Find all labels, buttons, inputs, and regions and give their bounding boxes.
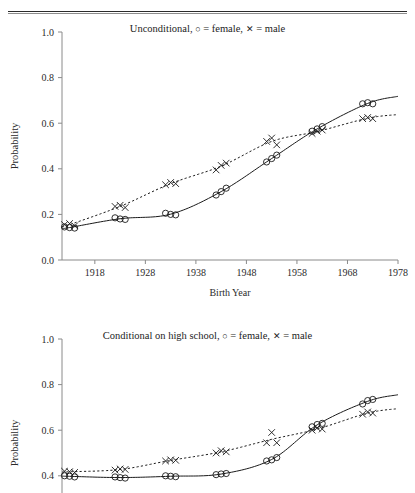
- y-axis-tick-label: 0.4: [42, 470, 55, 481]
- chart-unconditional-plot: 0.00.20.40.60.81.01918192819381948195819…: [0, 18, 415, 318]
- header-rule-thin: [8, 13, 407, 14]
- chart-unconditional: Unconditional, ○ = female, ✕ = male 0.00…: [0, 18, 415, 318]
- y-axis-title: Probability: [9, 122, 20, 169]
- y-axis-tick-label: 0.0: [42, 255, 55, 266]
- y-axis-tick-label: 0.4: [42, 163, 55, 174]
- y-axis-tick-label: 0.6: [42, 118, 55, 129]
- x-axis-tick-label: 1958: [287, 267, 307, 278]
- page: Unconditional, ○ = female, ✕ = male 0.00…: [0, 0, 415, 493]
- female-fit-curve: [62, 395, 398, 478]
- x-axis-tick-label: 1948: [236, 267, 256, 278]
- y-axis-tick-label: 1.0: [42, 334, 55, 345]
- y-axis-tick-label: 0.2: [42, 209, 55, 220]
- y-axis-tick-label: 0.8: [42, 379, 55, 390]
- y-axis-title: Probability: [9, 419, 20, 466]
- chart-conditional: Conditional on high school, ○ = female, …: [0, 325, 415, 493]
- y-axis-tick-label: 0.8: [42, 72, 55, 83]
- chart-conditional-plot: 0.40.60.81.0Probability: [0, 325, 415, 493]
- x-axis-tick-label: 1938: [186, 267, 206, 278]
- x-axis-tick-label: 1978: [388, 267, 408, 278]
- x-axis-title: Birth Year: [209, 287, 251, 298]
- male-fit-curve: [62, 115, 398, 227]
- y-axis-tick-label: 1.0: [42, 27, 55, 38]
- y-axis-tick-label: 0.6: [42, 425, 55, 436]
- x-axis-tick-label: 1918: [85, 267, 105, 278]
- x-axis-tick-label: 1928: [135, 267, 155, 278]
- x-axis-tick-label: 1968: [337, 267, 357, 278]
- header-rule-thick: [8, 11, 407, 12]
- male-fit-curve: [62, 409, 398, 472]
